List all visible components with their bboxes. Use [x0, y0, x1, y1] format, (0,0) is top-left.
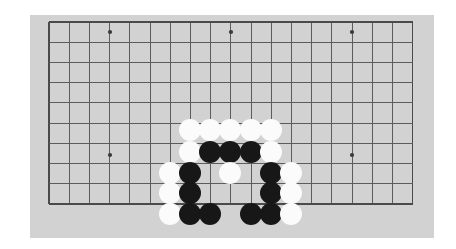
white-stone[interactable] — [280, 182, 302, 204]
black-stone[interactable] — [260, 162, 282, 184]
white-stone[interactable] — [280, 162, 302, 184]
white-stone[interactable] — [219, 119, 241, 141]
go-stones-layer[interactable] — [30, 15, 434, 238]
white-stone[interactable] — [280, 203, 302, 225]
white-stone[interactable] — [179, 141, 201, 163]
white-stone[interactable] — [159, 162, 181, 184]
white-stone[interactable] — [199, 119, 221, 141]
black-stone[interactable] — [240, 141, 262, 163]
black-stone[interactable] — [240, 203, 262, 225]
black-stone[interactable] — [179, 162, 201, 184]
black-stone[interactable] — [260, 182, 282, 204]
black-stone[interactable] — [199, 203, 221, 225]
white-stone[interactable] — [260, 119, 282, 141]
go-board-panel[interactable] — [30, 15, 434, 238]
white-stone[interactable] — [219, 162, 241, 184]
white-stone[interactable] — [260, 141, 282, 163]
white-stone[interactable] — [159, 203, 181, 225]
white-stone[interactable] — [159, 182, 181, 204]
black-stone[interactable] — [199, 141, 221, 163]
black-stone[interactable] — [260, 203, 282, 225]
black-stone[interactable] — [179, 203, 201, 225]
black-stone[interactable] — [219, 141, 241, 163]
black-stone[interactable] — [179, 182, 201, 204]
go-game-screen — [0, 0, 456, 249]
white-stone[interactable] — [240, 119, 262, 141]
white-stone[interactable] — [179, 119, 201, 141]
